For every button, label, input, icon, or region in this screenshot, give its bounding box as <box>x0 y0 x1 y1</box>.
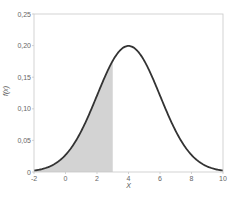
y-tick-label: 0,25 <box>17 11 31 18</box>
x-tick-label: 10 <box>219 175 227 182</box>
y-tick-label: 0,20 <box>17 42 31 49</box>
x-axis: -20246810 <box>31 172 227 182</box>
density-curve-line <box>34 46 223 171</box>
x-tick-label: 4 <box>127 175 131 182</box>
x-tick-label: 8 <box>190 175 194 182</box>
y-axis: 00,050,100,150,200,25 <box>17 11 34 176</box>
normal-density-chart: 00,050,100,150,200,25 -20246810 X f(x) <box>0 0 236 197</box>
x-tick-label: 2 <box>95 175 99 182</box>
shaded-area <box>34 61 113 172</box>
y-tick-label: 0,15 <box>17 74 31 81</box>
y-tick-label: 0,05 <box>17 137 31 144</box>
x-tick-label: 6 <box>158 175 162 182</box>
shaded-probability-area <box>34 61 113 172</box>
density-curve <box>34 46 223 171</box>
x-tick-label: -2 <box>31 175 37 182</box>
plot-frame <box>34 14 223 172</box>
y-tick-label: 0,10 <box>17 105 31 112</box>
x-tick-label: 0 <box>64 175 68 182</box>
x-axis-label: X <box>125 182 131 189</box>
y-axis-label: f(x) <box>2 86 10 96</box>
